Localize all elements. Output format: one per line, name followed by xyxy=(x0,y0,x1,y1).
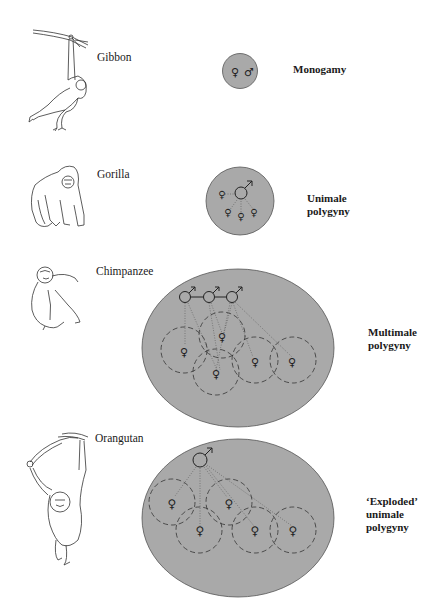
chimpanzee-illustration xyxy=(32,267,80,330)
svg-text:♂: ♂ xyxy=(244,66,254,79)
multimale-polygyny-group: ♀ ♀ ♀ ♀ ♀ xyxy=(142,269,334,427)
svg-text:♀: ♀ xyxy=(251,356,259,369)
exploded-unimale-polygyny-group: ♀ ♀ ♀ ♀ ♀ xyxy=(142,439,334,597)
species-label-gorilla: Gorilla xyxy=(97,168,130,180)
svg-text:♀: ♀ xyxy=(251,524,260,538)
gorilla-illustration xyxy=(31,166,84,226)
orangutan-illustration xyxy=(27,433,88,565)
svg-text:♀: ♀ xyxy=(218,331,226,344)
svg-text:♀: ♀ xyxy=(224,207,231,218)
system-label-line: unimale xyxy=(366,508,418,521)
system-label-monogamy: Monogamy xyxy=(293,63,346,76)
monogamy-group: ♀ ♂ xyxy=(223,54,258,89)
system-label-unimale-polygyny: Unimale polygyny xyxy=(307,192,350,218)
system-label-line: polygyny xyxy=(368,339,417,352)
system-label-line: Multimale xyxy=(368,326,417,339)
svg-text:♀: ♀ xyxy=(288,356,296,369)
gibbon-illustration xyxy=(29,30,88,131)
svg-text:♀: ♀ xyxy=(196,524,205,538)
svg-text:♀: ♀ xyxy=(231,66,239,79)
species-label-chimpanzee: Chimpanzee xyxy=(96,265,153,277)
system-label-line: Unimale xyxy=(307,192,350,205)
svg-text:♀: ♀ xyxy=(180,346,188,359)
unimale-polygyny-group: ♀ ♀ ♀ ♀ xyxy=(206,167,274,235)
species-label-orangutan: Orangutan xyxy=(95,432,144,444)
system-label-line: polygyny xyxy=(366,521,418,534)
svg-text:♀: ♀ xyxy=(218,189,225,200)
svg-text:♀: ♀ xyxy=(168,497,177,511)
svg-text:♀: ♀ xyxy=(237,211,244,222)
svg-text:♀: ♀ xyxy=(225,497,234,511)
system-label-line: polygyny xyxy=(307,205,350,218)
system-label-multimale-polygyny: Multimale polygyny xyxy=(368,326,417,352)
system-label-line: ‘Exploded’ xyxy=(366,495,418,508)
svg-text:♀: ♀ xyxy=(250,207,257,218)
system-label-line: Monogamy xyxy=(293,63,346,76)
svg-text:♀: ♀ xyxy=(289,524,298,538)
species-label-gibbon: Gibbon xyxy=(97,51,132,63)
system-label-exploded-unimale-polygyny: ‘Exploded’ unimale polygyny xyxy=(366,495,418,534)
svg-text:♀: ♀ xyxy=(212,368,220,381)
